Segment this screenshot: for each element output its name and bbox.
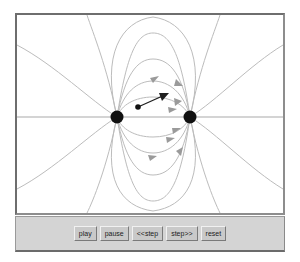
field-line-group <box>17 15 283 213</box>
control-panel: play pause <<step step>> reset <box>15 216 285 252</box>
field-simulation-canvas[interactable] <box>15 13 285 215</box>
test-particle-group[interactable] <box>135 93 169 110</box>
play-button[interactable]: play <box>74 226 97 241</box>
reset-button[interactable]: reset <box>201 226 227 241</box>
test-particle[interactable] <box>135 104 141 110</box>
pause-button[interactable]: pause <box>100 226 129 241</box>
step-back-button[interactable]: <<step <box>132 226 163 241</box>
field-lines-svg <box>17 15 283 213</box>
force-vector-arrowhead <box>159 93 169 101</box>
step-fwd-button[interactable]: step>> <box>166 226 197 241</box>
charge-right[interactable] <box>184 111 197 124</box>
field-direction-arrowheads <box>148 76 183 161</box>
playback-button-row: play pause <<step step>> reset <box>74 226 226 241</box>
applet-root: play pause <<step step>> reset <box>0 0 300 262</box>
charge-left[interactable] <box>111 111 124 124</box>
